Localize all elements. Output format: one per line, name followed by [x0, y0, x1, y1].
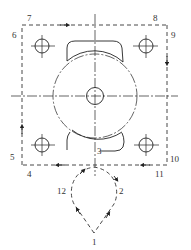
toolpath-diagram: 1 2 3 4 5 6 7 8 9 10 11 12: [0, 0, 191, 250]
hole-top-right: [133, 35, 158, 58]
label-9: 9: [171, 30, 176, 40]
hole-bottom-right: [134, 134, 159, 156]
label-4: 4: [27, 169, 32, 179]
hole-top-left: [31, 35, 55, 58]
label-5: 5: [10, 152, 15, 162]
label-10: 10: [170, 154, 180, 164]
label-7: 7: [27, 13, 32, 23]
label-12: 12: [57, 186, 66, 196]
label-6: 6: [12, 30, 17, 40]
centerlines: [11, 14, 178, 176]
approach-loop: [71, 167, 117, 233]
hole-bottom-left: [31, 134, 55, 156]
label-1: 1: [92, 237, 97, 247]
label-11: 11: [155, 169, 164, 179]
label-3: 3: [97, 146, 102, 156]
label-8: 8: [153, 13, 158, 23]
label-2: 2: [119, 186, 124, 196]
